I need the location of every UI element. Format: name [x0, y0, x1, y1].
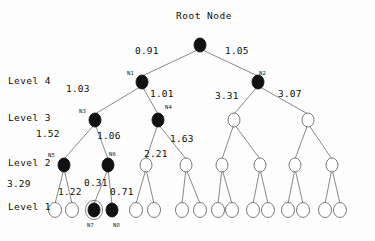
edge-weight-label: 1.05 [225, 45, 249, 56]
edge-weight-label: 1.52 [36, 128, 60, 139]
tree-node[interactable] [262, 203, 275, 218]
tree-node[interactable] [58, 158, 70, 172]
tree-edge [332, 169, 340, 204]
tree-node[interactable] [216, 158, 228, 172]
tree-node[interactable] [334, 203, 347, 218]
node-tag-label: N7 [87, 222, 94, 228]
tree-diagram-canvas: Root Node Level 4Level 3Level 2Level 1 0… [0, 0, 375, 241]
tree-node[interactable] [89, 113, 101, 127]
tree-edge [253, 169, 260, 204]
tree-node[interactable] [130, 203, 143, 218]
node-tag-label: N3 [79, 108, 86, 114]
node-tag-label: N6 [109, 151, 116, 157]
tree-node[interactable] [194, 203, 207, 218]
tree-node[interactable] [180, 158, 192, 172]
tree-edge [234, 124, 260, 159]
tree-edge [295, 124, 308, 159]
edge-weight-label: 3.07 [278, 88, 302, 99]
tree-node[interactable] [247, 203, 260, 218]
tree-edge [64, 124, 95, 159]
tree-node[interactable] [152, 113, 164, 127]
edge-weight-label: 2.21 [144, 148, 168, 159]
node-tag-label: N5 [48, 152, 55, 158]
tree-edge [136, 169, 146, 204]
tree-edge [186, 169, 200, 204]
tree-node[interactable] [252, 75, 264, 89]
edge-weight-label: 0.71 [110, 186, 134, 197]
tree-node[interactable] [326, 158, 338, 172]
edge-weight-label: 1.06 [97, 130, 121, 141]
edge-weight-label: 1.22 [58, 186, 82, 197]
node-tag-label: N4 [165, 104, 172, 110]
tree-edge [295, 169, 303, 204]
level-label: Level 2 [8, 157, 51, 168]
node-tag-label: N2 [259, 70, 266, 76]
edge-weight-label: 0.91 [135, 45, 159, 56]
tree-edge [222, 124, 234, 159]
node-tag-label: N8 [113, 222, 120, 228]
tree-edge [95, 86, 142, 114]
tree-edge [218, 169, 222, 204]
tree-node[interactable] [140, 158, 152, 172]
level-label: Level 1 [8, 201, 51, 212]
tree-edge [288, 169, 295, 204]
tree-edge [222, 169, 232, 204]
tree-edge [260, 169, 268, 204]
tree-edge [308, 124, 332, 159]
tree-node[interactable] [106, 203, 118, 217]
edge-weight-label: 1.01 [150, 88, 174, 99]
tree-node[interactable] [297, 203, 310, 218]
tree-node[interactable] [226, 203, 239, 218]
tree-node[interactable] [254, 158, 266, 172]
edge-weight-label: 1.03 [66, 83, 90, 94]
tree-node[interactable] [136, 75, 148, 89]
edge-weight-label: 3.31 [215, 90, 239, 101]
tree-node[interactable] [194, 38, 206, 52]
tree-edge [146, 169, 154, 204]
tree-graph [0, 0, 375, 241]
tree-node[interactable] [289, 158, 301, 172]
tree-edge [325, 169, 332, 204]
edge-weight-label: 3.29 [7, 178, 31, 189]
tree-node[interactable] [88, 203, 100, 217]
edge-weight-label: 0.31 [84, 177, 108, 188]
level-label: Level 3 [8, 112, 51, 123]
nodes-layer [49, 38, 347, 220]
node-tag-label: N1 [127, 70, 134, 76]
tree-node[interactable] [212, 203, 225, 218]
tree-node[interactable] [176, 203, 189, 218]
tree-node[interactable] [102, 158, 114, 172]
level-label: Level 4 [8, 75, 51, 86]
tree-node[interactable] [302, 113, 314, 127]
tree-node[interactable] [319, 203, 332, 218]
tree-node[interactable] [228, 113, 240, 127]
page-title: Root Node [176, 10, 232, 21]
tree-node[interactable] [66, 203, 79, 218]
tree-node[interactable] [282, 203, 295, 218]
tree-node[interactable] [148, 203, 161, 218]
tree-edge [182, 169, 186, 204]
edge-weight-label: 1.63 [170, 133, 194, 144]
